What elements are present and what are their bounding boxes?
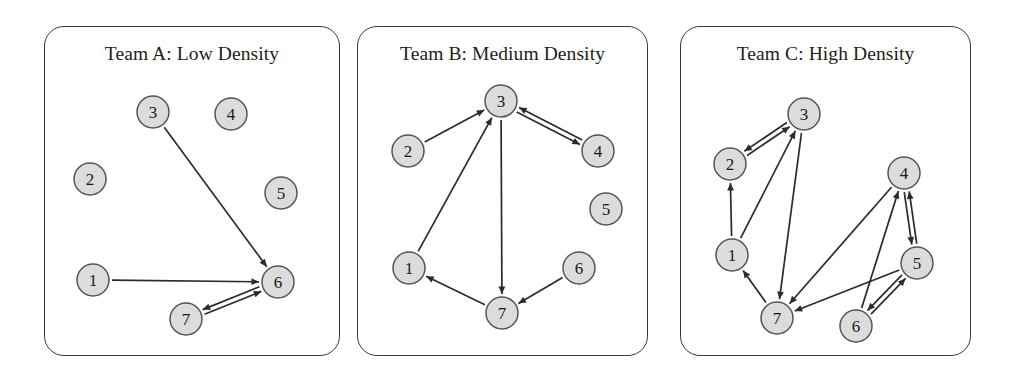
node-3: 3 [788,98,820,130]
node-3: 3 [137,96,169,128]
node-5: 5 [265,177,297,209]
node-2: 2 [714,148,746,180]
node-5: 5 [590,193,622,225]
graph-team-c: 1234567 [681,27,970,355]
node-4: 4 [215,98,247,130]
figure-canvas: Team A: Low Density 1234567 Team B: Medi… [0,0,1009,389]
panel-team-b: Team B: Medium Density 1234567 [357,26,648,356]
node-5: 5 [901,247,933,279]
node-1: 1 [716,239,748,271]
node-4: 4 [888,157,920,189]
panel-team-c: Team C: High Density 1234567 [680,26,971,356]
node-7: 7 [170,303,202,335]
panel-team-a: Team A: Low Density 1234567 [44,26,340,356]
graph-team-a: 1234567 [45,27,339,355]
node-6: 6 [840,310,872,342]
graph-team-b: 1234567 [358,27,647,355]
node-7: 7 [486,297,518,329]
node-2: 2 [74,163,106,195]
node-2: 2 [392,135,424,167]
node-6: 6 [563,252,595,284]
node-3: 3 [485,85,517,117]
node-4: 4 [582,135,614,167]
node-1: 1 [393,252,425,284]
node-7: 7 [761,302,793,334]
node-1: 1 [77,264,109,296]
node-6: 6 [262,266,294,298]
